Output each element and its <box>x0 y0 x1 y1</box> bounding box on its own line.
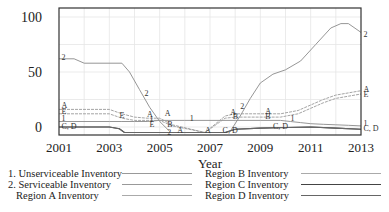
legend-label: Region D Inventory <box>205 190 295 201</box>
series-marker-label: 2 <box>145 89 149 98</box>
legend-right: Region B Inventory Region C Inventory Re… <box>205 168 381 201</box>
legend-label: Region B Inventory <box>205 168 295 179</box>
series-marker-label: B <box>167 120 172 129</box>
series-marker-label: 1 <box>150 115 154 124</box>
x-tick-label: 2013 <box>348 140 374 155</box>
y-tick-label: 100 <box>21 10 42 25</box>
legend-swatch <box>301 184 381 185</box>
legend-item-region-d: Region D Inventory <box>205 190 381 201</box>
legend-left: 1. Unserviceable Inventory 2. Serviceabl… <box>8 168 192 201</box>
x-tick-label: 2011 <box>298 140 324 155</box>
series-marker-label: C, D <box>62 122 77 131</box>
legend-label: Region C Inventory <box>205 179 295 190</box>
series-marker-label: B <box>233 112 238 121</box>
series-marker-label: A <box>177 126 183 135</box>
legend-item-region-a: Region A Inventory <box>8 190 192 201</box>
legend-swatch <box>301 195 381 196</box>
series-marker-label: 2 <box>240 102 244 111</box>
legend-item-unserviceable: 1. Unserviceable Inventory <box>8 168 192 179</box>
legend-swatch <box>122 173 192 174</box>
y-axis-labels: 100500 <box>21 10 42 135</box>
legend-label: 1. Unserviceable Inventory <box>8 168 116 179</box>
legend-swatch <box>122 195 192 196</box>
series-marker-label: A <box>165 109 171 118</box>
series-marker-label: 1 <box>291 114 295 123</box>
series-marker-label: 2 <box>364 30 368 39</box>
series-marker-label: C, D <box>364 124 379 133</box>
x-tick-label: 2009 <box>247 140 273 155</box>
series-marker-label: C, D <box>273 122 288 131</box>
legend-swatch <box>301 173 381 174</box>
legend-item-region-c: Region C Inventory <box>205 179 381 190</box>
legend-label: Region A Inventory <box>8 190 116 201</box>
x-tick-label: 2001 <box>46 140 72 155</box>
legend-swatch <box>122 184 192 185</box>
x-tick-label: 2007 <box>197 140 224 155</box>
y-tick-label: 0 <box>35 120 42 135</box>
x-axis-labels: 2001200320052007200920112013 <box>46 140 374 155</box>
gridlines <box>59 8 361 135</box>
series-marker-label: 2 <box>167 128 171 137</box>
series-marker-label: A <box>205 126 211 135</box>
legend-label: 2. Serviceable Inventory <box>8 179 116 190</box>
series-marker-label: 2 <box>62 53 66 62</box>
series-marker-label: 1 <box>190 114 194 123</box>
y-tick-label: 50 <box>28 65 42 80</box>
x-tick-label: 2003 <box>96 140 122 155</box>
x-tick-label: 2005 <box>147 140 173 155</box>
series-marker-label: C, D <box>223 126 238 135</box>
series-marker-label: B <box>265 112 270 121</box>
series-marker-label: E <box>364 90 369 99</box>
series-marker-label: E <box>119 111 124 120</box>
legend-item-serviceable: 2. Serviceable Inventory <box>8 179 192 190</box>
legend-item-region-b: Region B Inventory <box>205 168 381 179</box>
